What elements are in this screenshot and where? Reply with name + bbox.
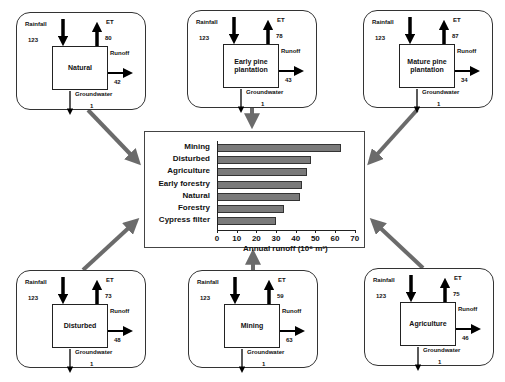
et-label: ET: [453, 17, 461, 23]
bar-mining: [217, 144, 341, 152]
runoff-bar-chart: MiningDisturbedAgricultureEarly forestry…: [144, 131, 365, 248]
panel-mature-pine: Mature pine plantation Rainfall 123 ET 8…: [363, 10, 493, 108]
x-tick-label: 30: [272, 234, 281, 243]
x-tick-mark: [217, 230, 218, 233]
x-tick-label: 40: [291, 234, 300, 243]
et-value: 80: [105, 35, 112, 41]
runoff-value: 46: [462, 335, 469, 341]
land-use-box: Disturbed: [52, 304, 108, 348]
runoff-label: Runoff: [458, 306, 477, 312]
x-tick-label: 60: [331, 234, 340, 243]
et-label: ET: [454, 275, 462, 281]
groundwater-value: 1: [90, 103, 93, 109]
x-tick-mark: [315, 230, 316, 233]
panel-natural: Natural Rainfall 123 ET 80 Runoff 42 Gro…: [16, 12, 146, 110]
land-use-box: Mining: [224, 304, 280, 348]
x-axis-title: Annual runoff (10⁶ m³): [243, 244, 328, 253]
rainfall-label: Rainfall: [196, 19, 218, 25]
rainfall-label: Rainfall: [25, 21, 47, 27]
rainfall-value: 123: [200, 295, 210, 301]
runoff-value: 34: [461, 77, 468, 83]
panel-mining: Mining Rainfall 123 ET 59 Runoff 63 Grou…: [188, 270, 318, 368]
category-label: Mining: [184, 142, 210, 151]
x-tick-mark: [237, 230, 238, 233]
groundwater-label: Groundwater: [423, 347, 460, 353]
et-value: 78: [276, 33, 283, 39]
land-use-box: Mature pine plantation: [399, 44, 455, 88]
x-tick-mark: [355, 230, 356, 233]
runoff-value: 43: [285, 77, 292, 83]
panel-early-pine: Early pine plantation Rainfall 123 ET 78…: [187, 10, 317, 108]
x-tick-mark: [335, 230, 336, 233]
x-tick-mark: [296, 230, 297, 233]
rainfall-value: 123: [28, 295, 38, 301]
land-use-box: Agriculture: [400, 302, 456, 346]
land-use-box: Early pine plantation: [223, 44, 279, 88]
runoff-label: Runoff: [110, 308, 129, 314]
rainfall-value: 123: [376, 293, 386, 299]
runoff-value: 48: [114, 337, 121, 343]
groundwater-value: 1: [438, 359, 441, 365]
runoff-label: Runoff: [110, 50, 129, 56]
x-tick-mark: [276, 230, 277, 233]
groundwater-value: 1: [90, 361, 93, 367]
land-use-box: Natural: [52, 46, 108, 90]
category-label: Forestry: [178, 203, 210, 212]
et-label: ET: [278, 277, 286, 283]
x-tick-label: 0: [215, 234, 219, 243]
category-label: Agriculture: [167, 166, 210, 175]
groundwater-label: Groundwater: [75, 91, 112, 97]
x-tick-label: 50: [311, 234, 320, 243]
et-value: 75: [453, 291, 460, 297]
runoff-label: Runoff: [457, 48, 476, 54]
et-value: 87: [452, 33, 459, 39]
groundwater-value: 1: [262, 361, 265, 367]
runoff-label: Runoff: [281, 48, 300, 54]
land-use-title: Natural: [68, 64, 92, 72]
land-use-title: Disturbed: [64, 322, 97, 330]
panel-disturbed: Disturbed Rainfall 123 ET 73 Runoff 48 G…: [16, 270, 146, 368]
runoff-label: Runoff: [282, 308, 301, 314]
bar-cypress-filter: [217, 217, 276, 225]
land-use-title: Mature pine plantation: [400, 58, 454, 75]
category-label: Natural: [182, 191, 210, 200]
groundwater-value: 1: [261, 101, 264, 107]
groundwater-label: Groundwater: [247, 349, 284, 355]
arrow-disturbed-to-chart: [83, 223, 134, 270]
et-label: ET: [106, 19, 114, 25]
bar-forestry: [217, 205, 284, 213]
y-axis-line: [217, 141, 218, 230]
bar-early-forestry: [217, 181, 302, 189]
rainfall-value: 123: [28, 37, 38, 43]
rainfall-value: 123: [199, 35, 209, 41]
category-label: Cypress filter: [159, 215, 210, 224]
et-label: ET: [106, 277, 114, 283]
et-value: 59: [277, 293, 284, 299]
groundwater-label: Groundwater: [246, 89, 283, 95]
bar-natural: [217, 193, 300, 201]
x-tick-label: 70: [350, 234, 359, 243]
rainfall-label: Rainfall: [373, 277, 395, 283]
et-label: ET: [277, 17, 285, 23]
arrow-agriculture-to-chart: [375, 223, 423, 268]
groundwater-label: Groundwater: [75, 349, 112, 355]
land-use-title: Mining: [241, 322, 264, 330]
rainfall-value: 123: [375, 35, 385, 41]
runoff-value: 42: [114, 79, 121, 85]
category-label: Early forestry: [158, 179, 210, 188]
bar-disturbed: [217, 156, 311, 164]
runoff-value: 63: [286, 337, 293, 343]
x-tick-label: 20: [252, 234, 261, 243]
category-label: Disturbed: [173, 154, 210, 163]
et-value: 73: [105, 293, 112, 299]
x-tick-label: 10: [232, 234, 241, 243]
panel-agriculture: Agriculture Rainfall 123 ET 75 Runoff 46…: [364, 268, 494, 366]
rainfall-label: Rainfall: [372, 19, 394, 25]
land-use-title: Agriculture: [409, 320, 446, 328]
x-tick-mark: [256, 230, 257, 233]
groundwater-label: Groundwater: [422, 89, 459, 95]
bar-agriculture: [217, 168, 307, 176]
rainfall-label: Rainfall: [25, 279, 47, 285]
groundwater-value: 1: [437, 101, 440, 107]
rainfall-label: Rainfall: [197, 279, 219, 285]
